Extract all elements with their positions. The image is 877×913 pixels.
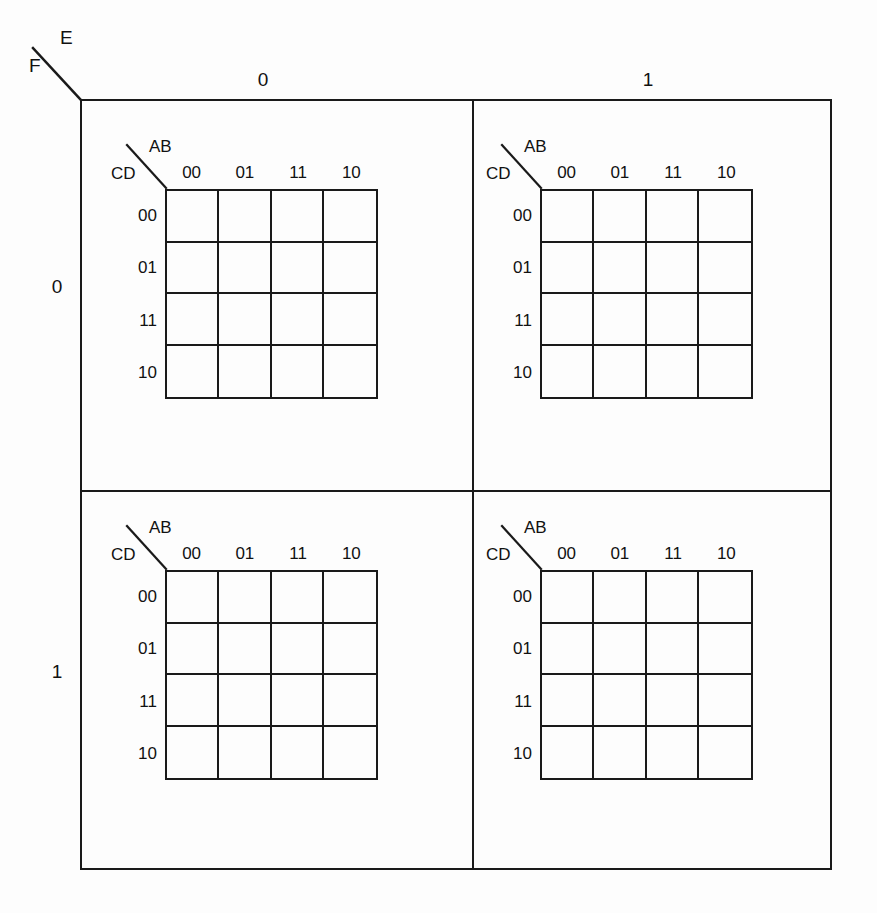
kmap-cell[interactable]	[324, 572, 376, 624]
quadrant-E0-F1: AB CD 00 01 11 10 00 01 11 10	[107, 509, 407, 799]
kmap-cell[interactable]	[167, 624, 219, 676]
kmap-cell[interactable]	[699, 675, 751, 727]
kmap-cell[interactable]	[219, 191, 271, 243]
cd-row-header: 01	[117, 242, 161, 295]
kmap-cell[interactable]	[594, 191, 646, 243]
kmap-grid	[165, 189, 378, 399]
kmap-cell[interactable]	[272, 727, 324, 779]
kmap-cell[interactable]	[324, 727, 376, 779]
kmap-cell[interactable]	[647, 243, 699, 295]
kmap-cell[interactable]	[594, 624, 646, 676]
inner-axis-label-cd: CD	[111, 546, 136, 563]
cd-row-header: 10	[117, 728, 161, 781]
kmap-grid	[540, 189, 753, 399]
quadrant-E1-F1: AB CD 00 01 11 10 00 01 11 10	[482, 509, 782, 799]
kmap-cell[interactable]	[219, 675, 271, 727]
kmap-cell[interactable]	[594, 294, 646, 346]
kmap-cell[interactable]	[167, 294, 219, 346]
cd-row-header: 11	[117, 294, 161, 347]
kmap-cell[interactable]	[219, 624, 271, 676]
kmap-cell[interactable]	[699, 191, 751, 243]
kmap-cell[interactable]	[594, 346, 646, 398]
ab-column-header: 01	[218, 545, 271, 562]
kmap-cell[interactable]	[272, 572, 324, 624]
kmap-cell[interactable]	[219, 346, 271, 398]
kmap-cell[interactable]	[647, 191, 699, 243]
ab-column-header: 11	[272, 164, 325, 181]
cd-row-header: 10	[492, 347, 536, 400]
kmap-cell[interactable]	[647, 572, 699, 624]
kmap-cell[interactable]	[272, 624, 324, 676]
kmap-cell[interactable]	[699, 572, 751, 624]
kmap-cell[interactable]	[219, 727, 271, 779]
kmap-cell[interactable]	[324, 191, 376, 243]
kmap-cell[interactable]	[594, 243, 646, 295]
kmap-grid	[165, 570, 378, 780]
kmap-cell[interactable]	[219, 243, 271, 295]
kmap-cell[interactable]	[324, 624, 376, 676]
cd-row-header: 11	[117, 675, 161, 728]
inner-axis-label-cd: CD	[486, 546, 511, 563]
outer-horizontal-divider	[82, 490, 830, 492]
kmap-cell[interactable]	[324, 346, 376, 398]
kmap-cell[interactable]	[647, 294, 699, 346]
kmap-cell[interactable]	[594, 572, 646, 624]
cd-row-header: 01	[117, 623, 161, 676]
cd-row-headers: 00 01 11 10	[492, 570, 536, 780]
kmap-cell[interactable]	[272, 294, 324, 346]
outer-axis-label-f: F	[29, 56, 41, 75]
kmap-cell[interactable]	[324, 675, 376, 727]
kmap-cell[interactable]	[594, 675, 646, 727]
kmap-cell[interactable]	[167, 727, 219, 779]
cd-row-header: 00	[492, 189, 536, 242]
ab-column-header: 10	[325, 545, 378, 562]
cd-row-header: 00	[492, 570, 536, 623]
kmap-cell[interactable]	[219, 294, 271, 346]
kmap-cell[interactable]	[542, 346, 594, 398]
cd-row-headers: 00 01 11 10	[117, 570, 161, 780]
kmap-cell[interactable]	[647, 727, 699, 779]
ab-column-headers: 00 01 11 10	[540, 164, 753, 181]
ab-column-headers: 00 01 11 10	[165, 164, 378, 181]
kmap-cell[interactable]	[272, 191, 324, 243]
ab-column-header: 00	[540, 164, 593, 181]
inner-axis-label-ab: AB	[524, 138, 547, 155]
kmap-cell[interactable]	[699, 294, 751, 346]
outer-axis-label-e: E	[60, 28, 73, 47]
kmap-cell[interactable]	[542, 727, 594, 779]
ab-column-header: 11	[647, 164, 700, 181]
cd-row-header: 00	[117, 570, 161, 623]
kmap-cell[interactable]	[324, 243, 376, 295]
kmap-cell[interactable]	[324, 294, 376, 346]
kmap-cell[interactable]	[272, 675, 324, 727]
kmap-cell[interactable]	[219, 572, 271, 624]
kmap-cell[interactable]	[542, 191, 594, 243]
e-column-header-1: 1	[628, 70, 668, 89]
kmap-cell[interactable]	[594, 727, 646, 779]
ab-column-header: 00	[165, 545, 218, 562]
kmap-cell[interactable]	[542, 624, 594, 676]
kmap-cell[interactable]	[167, 346, 219, 398]
kmap-cell[interactable]	[699, 624, 751, 676]
kmap-cell[interactable]	[699, 243, 751, 295]
kmap-cell[interactable]	[272, 346, 324, 398]
kmap-cell[interactable]	[542, 572, 594, 624]
ab-column-header: 11	[647, 545, 700, 562]
ab-column-headers: 00 01 11 10	[165, 545, 378, 562]
kmap-cell[interactable]	[272, 243, 324, 295]
cd-row-header: 10	[492, 728, 536, 781]
kmap-cell[interactable]	[167, 675, 219, 727]
kmap-cell[interactable]	[542, 294, 594, 346]
kmap-grid	[540, 570, 753, 780]
f-row-label-1: 1	[40, 662, 74, 681]
kmap-cell[interactable]	[647, 346, 699, 398]
kmap-cell[interactable]	[699, 346, 751, 398]
kmap-cell[interactable]	[542, 243, 594, 295]
kmap-cell[interactable]	[542, 675, 594, 727]
kmap-cell[interactable]	[167, 191, 219, 243]
kmap-cell[interactable]	[699, 727, 751, 779]
kmap-cell[interactable]	[167, 243, 219, 295]
kmap-cell[interactable]	[167, 572, 219, 624]
kmap-cell[interactable]	[647, 675, 699, 727]
kmap-cell[interactable]	[647, 624, 699, 676]
